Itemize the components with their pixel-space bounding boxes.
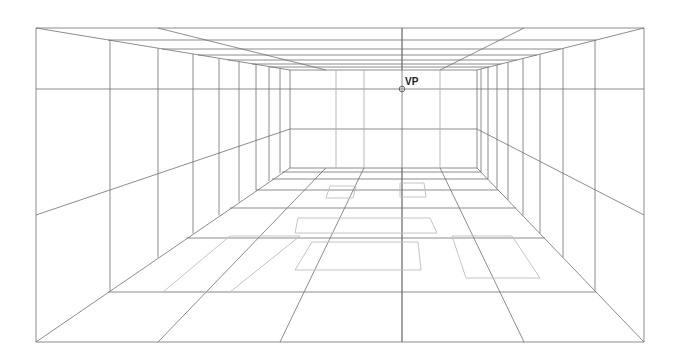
- rug-mid-left: [295, 218, 437, 233]
- right-wall-rail: [477, 129, 644, 215]
- corner-edge: [36, 168, 290, 342]
- floor-column: [280, 168, 364, 342]
- corner-edge: [477, 168, 644, 342]
- rug-left-large: [163, 236, 300, 292]
- perspective-diagram: VP: [0, 0, 678, 361]
- floor-column: [158, 168, 326, 342]
- perspective-grid: [36, 28, 644, 342]
- floor-column: [440, 168, 524, 342]
- perspective-canvas: VP: [0, 0, 678, 361]
- floor-rugs: [163, 183, 540, 292]
- rug-back-left: [326, 186, 356, 198]
- rug-right: [452, 236, 540, 278]
- vanishing-point-label: VP: [405, 76, 419, 87]
- left-wall-rail: [36, 129, 290, 215]
